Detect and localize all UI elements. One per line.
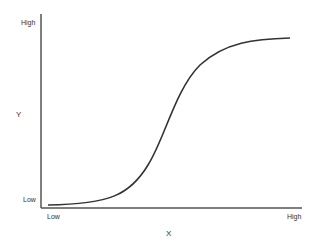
x-tick-high: High xyxy=(287,213,301,220)
y-tick-low: Low xyxy=(23,196,36,203)
x-axis-label: X xyxy=(166,229,171,238)
sigmoid-curve xyxy=(48,38,290,205)
y-axis-label: Y xyxy=(16,110,21,119)
y-tick-high: High xyxy=(21,19,35,26)
x-tick-low: Low xyxy=(47,213,60,220)
